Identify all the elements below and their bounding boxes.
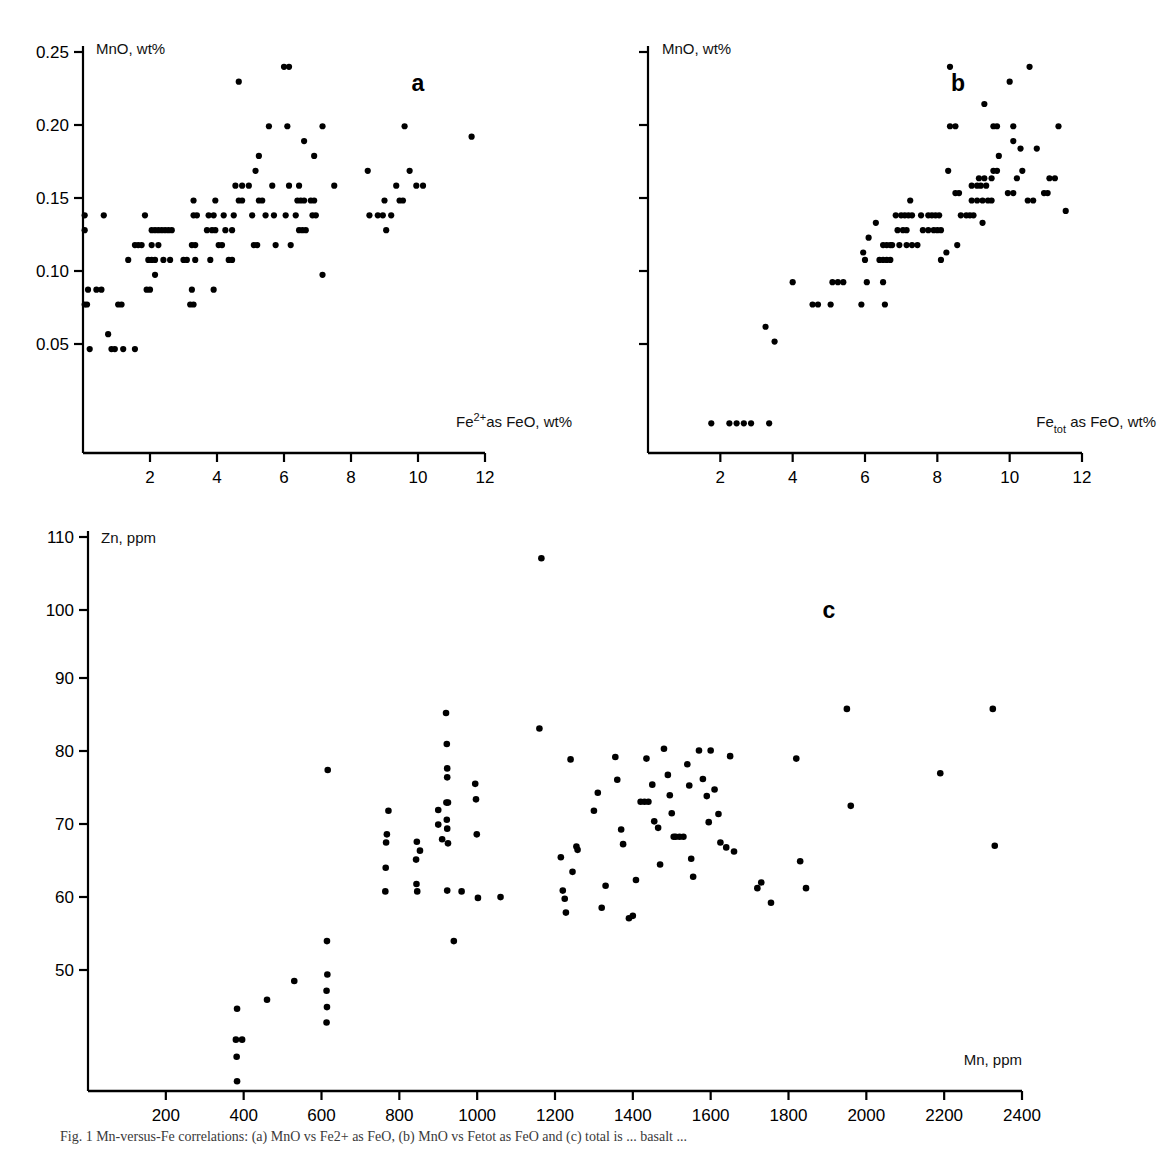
x-axis-title: Mn, ppm bbox=[964, 1051, 1022, 1068]
data-point bbox=[319, 123, 325, 129]
panel-b: 24681012MnO, wt%bFetot as FeO, wt% bbox=[580, 0, 1164, 495]
data-point bbox=[132, 346, 138, 352]
data-point bbox=[383, 227, 389, 233]
data-point bbox=[192, 242, 198, 248]
data-point bbox=[903, 242, 909, 248]
data-point bbox=[558, 854, 565, 861]
data-point bbox=[291, 978, 298, 985]
data-point bbox=[451, 938, 458, 945]
data-point bbox=[835, 279, 841, 285]
data-point bbox=[232, 183, 238, 189]
data-point bbox=[945, 168, 951, 174]
data-point bbox=[444, 774, 451, 781]
data-point bbox=[112, 346, 118, 352]
data-point bbox=[444, 816, 451, 823]
data-point bbox=[574, 847, 581, 854]
data-point bbox=[1063, 208, 1069, 214]
data-point bbox=[435, 807, 442, 814]
y-tick-label: 60 bbox=[55, 888, 74, 907]
data-point bbox=[82, 212, 88, 218]
data-point bbox=[414, 888, 421, 895]
data-point bbox=[667, 792, 674, 799]
data-point bbox=[1010, 190, 1016, 196]
x-tick-label: 4 bbox=[788, 468, 797, 487]
x-tick-label: 1800 bbox=[770, 1106, 808, 1125]
scatter-plot-a: 0.050.100.150.200.2524681012MnO, wt%aFe2… bbox=[0, 0, 580, 495]
data-point bbox=[1005, 190, 1011, 196]
data-point bbox=[567, 756, 574, 763]
data-point bbox=[262, 212, 268, 218]
data-point bbox=[266, 123, 272, 129]
x-tick-label: 2400 bbox=[1003, 1106, 1041, 1125]
data-point bbox=[445, 799, 452, 806]
data-point bbox=[655, 825, 662, 832]
data-point bbox=[988, 197, 994, 203]
data-point bbox=[324, 767, 331, 774]
data-point bbox=[212, 197, 218, 203]
data-point bbox=[323, 1019, 330, 1026]
data-point bbox=[229, 227, 235, 233]
data-point bbox=[684, 761, 691, 768]
data-point bbox=[569, 869, 576, 876]
x-tick-label: 2 bbox=[716, 468, 725, 487]
data-point bbox=[120, 346, 126, 352]
x-tick-label: 10 bbox=[1000, 468, 1019, 487]
data-point bbox=[435, 821, 442, 828]
data-point bbox=[444, 825, 451, 832]
data-point bbox=[393, 183, 399, 189]
data-point bbox=[407, 168, 413, 174]
data-point bbox=[252, 168, 258, 174]
data-point bbox=[84, 301, 90, 307]
data-point bbox=[439, 836, 446, 843]
data-point bbox=[382, 864, 389, 871]
data-point bbox=[858, 301, 864, 307]
data-point bbox=[665, 772, 672, 779]
data-point bbox=[303, 227, 309, 233]
data-point bbox=[936, 212, 942, 218]
data-point bbox=[222, 227, 228, 233]
data-point bbox=[828, 301, 834, 307]
data-point bbox=[319, 272, 325, 278]
x-tick-label: 12 bbox=[1073, 468, 1092, 487]
data-point bbox=[417, 847, 424, 854]
data-point bbox=[762, 324, 768, 330]
data-point bbox=[388, 212, 394, 218]
data-point bbox=[947, 64, 953, 70]
x-tick-label: 1600 bbox=[692, 1106, 730, 1125]
data-point bbox=[221, 212, 227, 218]
data-point bbox=[231, 212, 237, 218]
data-point bbox=[909, 212, 915, 218]
data-point bbox=[847, 803, 854, 810]
data-point bbox=[420, 183, 426, 189]
data-point bbox=[688, 856, 695, 863]
data-point bbox=[970, 212, 976, 218]
data-point bbox=[167, 257, 173, 263]
data-point bbox=[147, 287, 153, 293]
data-point bbox=[954, 242, 960, 248]
data-point bbox=[323, 987, 330, 994]
data-point bbox=[385, 807, 392, 814]
data-point bbox=[1055, 123, 1061, 129]
data-point bbox=[296, 183, 302, 189]
data-point bbox=[645, 798, 652, 805]
x-tick-label: 12 bbox=[476, 468, 495, 487]
data-point bbox=[943, 249, 949, 255]
data-point bbox=[1010, 123, 1016, 129]
y-tick-label: 0.10 bbox=[36, 262, 69, 281]
data-point bbox=[383, 839, 390, 846]
data-point bbox=[614, 776, 621, 783]
data-point bbox=[864, 279, 870, 285]
data-point bbox=[896, 242, 902, 248]
x-axis-title: Fe2+as FeO, wt% bbox=[456, 411, 572, 430]
data-point bbox=[1014, 175, 1020, 181]
data-point bbox=[402, 123, 408, 129]
y-tick-label: 100 bbox=[46, 601, 74, 620]
data-point bbox=[194, 212, 200, 218]
data-points bbox=[708, 64, 1069, 427]
data-point bbox=[239, 1036, 246, 1043]
x-tick-label: 200 bbox=[152, 1106, 180, 1125]
data-point bbox=[413, 183, 419, 189]
data-point bbox=[189, 287, 195, 293]
data-point bbox=[978, 183, 984, 189]
data-point bbox=[101, 212, 107, 218]
